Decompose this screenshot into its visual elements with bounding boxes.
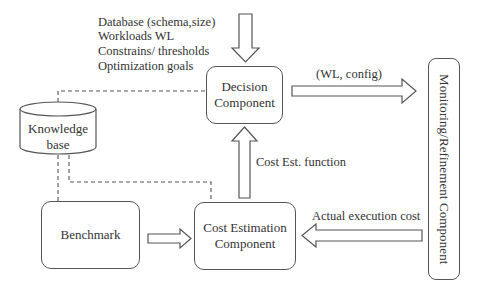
benchmark-box: Benchmark bbox=[41, 201, 140, 269]
dashed-link-kb-decision bbox=[58, 91, 206, 102]
knowledge-base-line2: base bbox=[20, 137, 96, 153]
arrow-cost-to-decision bbox=[232, 127, 257, 198]
input-arrow-down bbox=[232, 14, 259, 62]
decision-line1: Decision bbox=[221, 79, 267, 95]
cost-estimation-component: Cost Estimation Component bbox=[194, 202, 296, 270]
monitoring-refinement-component: Monitoring/Refinement Component bbox=[428, 58, 460, 280]
monitoring-label: Monitoring/Refinement Component bbox=[436, 74, 452, 265]
benchmark-label: Benchmark bbox=[61, 227, 121, 243]
input-workloads: Workloads WL bbox=[98, 29, 174, 44]
arrow-monitoring-to-cost bbox=[302, 224, 422, 247]
knowledge-base-label: Knowledge base bbox=[20, 121, 96, 153]
decision-component: Decision Component bbox=[206, 66, 283, 124]
input-constraints: Constrains/ thresholds bbox=[98, 44, 209, 59]
arrow-decision-to-monitoring bbox=[292, 79, 416, 103]
input-database: Database (schema,size) bbox=[98, 15, 215, 30]
decision-line2: Component bbox=[214, 95, 275, 111]
edge-label-cost-est-function: Cost Est. function bbox=[256, 155, 346, 170]
cost-estimation-line2: Component bbox=[215, 236, 276, 252]
edge-label-wl-config: (WL, config) bbox=[316, 67, 382, 82]
dashed-link-kb-cost bbox=[69, 155, 211, 202]
edge-label-actual-execution-cost: Actual execution cost bbox=[312, 209, 420, 224]
input-goals: Optimization goals bbox=[98, 59, 193, 74]
arrow-benchmark-to-cost bbox=[148, 229, 191, 248]
knowledge-base-line1: Knowledge bbox=[20, 121, 96, 137]
cost-estimation-line1: Cost Estimation bbox=[203, 220, 286, 236]
